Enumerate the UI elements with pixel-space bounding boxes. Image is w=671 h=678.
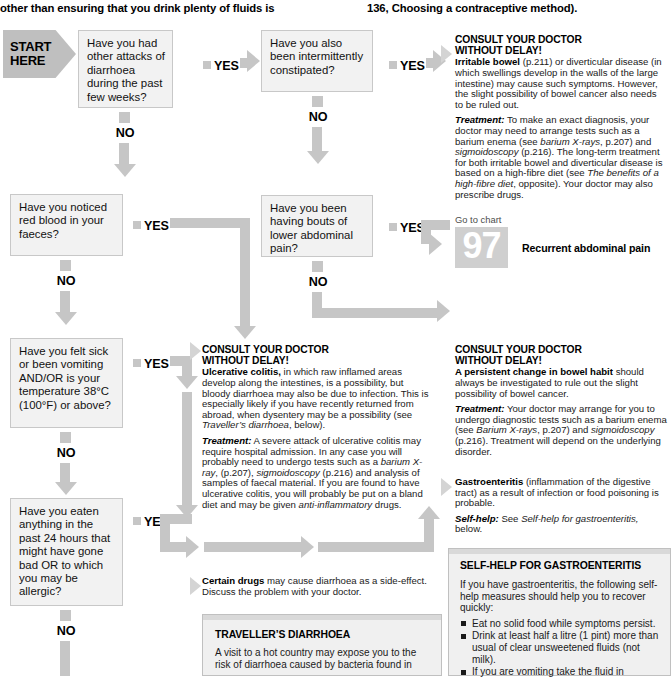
- advice-irritable-para-2: Treatment: To make an exact diagnosis, y…: [455, 115, 667, 200]
- flow-connector-q5-no-bar: [60, 463, 70, 483]
- flow-connector-q3-no-horiz: [312, 308, 440, 318]
- flow-arrow-q4-to-ulcerative: [234, 326, 256, 339]
- flow-arrow-q4-to-q5: [55, 312, 77, 325]
- feature-box-self-help-title: SELF-HELP FOR GASTROENTERITIS: [460, 560, 660, 572]
- question-box-5[interactable]: Have you felt sick or been vomiting AND/…: [10, 338, 123, 428]
- advice-bowel-para-2: Treatment: Your doctor may arrange for y…: [455, 404, 667, 457]
- self-help-bullet-item: Drink at least half a litre (1 pint) mor…: [460, 630, 660, 665]
- chart-number-97[interactable]: 97: [455, 227, 508, 268]
- advice-gastro-term: Gastroenteritis: [455, 476, 523, 487]
- flow-arrow-q1-no-head: [114, 164, 136, 177]
- question-box-1[interactable]: Have you had other attacks of diarrhoea …: [78, 30, 173, 108]
- self-help-bullet-list: Eat no solid food while symptoms persist…: [460, 618, 660, 678]
- flow-connector-q6-no-bar: [60, 641, 70, 676]
- flow-label-yes-q4: YES: [133, 220, 169, 233]
- feature-box-self-help-topbar: [449, 549, 670, 554]
- flow-label-no-q6: NO: [50, 624, 82, 638]
- flow-connector-q1-no-bar: [119, 143, 129, 165]
- yes-swatch-icon-2: [389, 61, 397, 69]
- self-help-bullet-item: Eat no solid food while symptoms persist…: [460, 618, 660, 630]
- advice-irritable-para-1: Irritable bowel (p.211) or diverticular …: [455, 57, 667, 110]
- advice-irritable-term: Irritable bowel: [455, 56, 520, 67]
- feature-box-travellers-diarrhoea: TRAVELLER’S DIARRHOEA A visit to a hot c…: [202, 614, 442, 676]
- advice-irritable-treatment-label: Treatment:: [455, 114, 504, 125]
- flow-arrow-q3-to-chart97: [429, 233, 442, 255]
- flow-connector-q6-yes-long2: [318, 542, 434, 552]
- advice-certain-drugs: Certain drugs may cause diarrhoea as a s…: [202, 576, 442, 597]
- flow-label-yes-q5: YES: [133, 358, 169, 371]
- yes-swatch-icon-6: [133, 517, 141, 525]
- yes-swatch-icon: [203, 61, 211, 69]
- advice-bowel-habit: CONSULT YOUR DOCTOR WITHOUT DELAY! A per…: [455, 344, 667, 457]
- flow-arrow-q2-to-q3: [307, 151, 329, 164]
- flow-label-no-q5: NO: [50, 446, 82, 460]
- flow-label-no-q3: NO: [302, 275, 334, 289]
- advice-ulcerative-colitis: CONSULT YOUR DOCTOR WITHOUT DELAY! Ulcer…: [202, 344, 434, 510]
- flow-arrow-q3-no-head: [437, 300, 450, 322]
- advice-ulcerative-heading-1: CONSULT YOUR DOCTOR: [202, 344, 434, 355]
- advice-ulcerative-para-2: Treatment: A severe attack of ulcerative…: [202, 436, 434, 510]
- question-box-3[interactable]: Have you been having bouts of lower abdo…: [261, 195, 373, 257]
- flow-connector-q5-yes-long: [182, 392, 192, 507]
- feature-box-self-help-intro: If you have gastroenteritis, the followi…: [460, 579, 660, 614]
- yes-swatch-icon-3: [389, 223, 397, 231]
- flow-stub-q4-no: [60, 260, 71, 271]
- start-here-marker: START HERE: [3, 30, 76, 78]
- flow-arrow-q6-yes-head: [186, 536, 199, 558]
- advice-gastroenteritis: Gastroenteritis (inflammation of the dig…: [455, 477, 667, 535]
- flow-label-yes-q1: YES: [203, 60, 239, 73]
- flow-arrow-certain-drugs: [190, 577, 201, 595]
- feature-box-self-help: SELF-HELP FOR GASTROENTERITIS If you hav…: [448, 548, 671, 676]
- flow-elbow-q6-yes-h: [170, 514, 192, 524]
- feature-box-travellers-title: TRAVELLER’S DIARRHOEA: [215, 629, 429, 641]
- header-right-text: 136, Choosing a contraceptive method).: [367, 2, 667, 15]
- question-box-4[interactable]: Have you noticed red blood in your faece…: [10, 194, 123, 256]
- advice-irritable-bowel: CONSULT YOUR DOCTOR WITHOUT DELAY! Irrit…: [455, 34, 667, 200]
- advice-bowel-para-1: A persistent change in bowel habit shoul…: [455, 367, 667, 399]
- flow-connector-riser-right: [424, 518, 434, 552]
- question-box-6[interactable]: Have you eaten anything in the past 24 h…: [10, 498, 123, 606]
- flow-label-no-q2: NO: [302, 110, 334, 124]
- flow-label-yes-q2: YES: [389, 60, 425, 73]
- start-label-line2: HERE: [10, 54, 51, 68]
- flow-arrow-q6-yes-head2: [301, 536, 314, 558]
- flow-arrow-marker-irritable: [441, 45, 452, 63]
- flow-connector-q2-no-bar: [312, 127, 322, 152]
- flow-stub-q5-no: [60, 432, 71, 443]
- flow-label-no-q1: NO: [109, 126, 141, 140]
- flow-label-no-q4: NO: [50, 274, 82, 288]
- flow-label-yes-q3: YES: [389, 222, 425, 235]
- advice-ulcerative-heading-2: WITHOUT DELAY!: [202, 355, 434, 366]
- advice-certain-drugs-term: Certain drugs: [202, 575, 264, 586]
- feature-box-travellers-topbar: [203, 615, 441, 620]
- question-box-2[interactable]: Have you also been intermittently consti…: [261, 30, 373, 92]
- flow-arrow-marker-ulcerative: [190, 342, 201, 360]
- advice-gastro-selfhelp-label: Self-help:: [455, 513, 499, 524]
- yes-swatch-icon-5: [133, 359, 141, 367]
- feature-box-travellers-body: A visit to a hot country may expose you …: [215, 647, 429, 670]
- go-to-chart-label: Go to chart: [455, 215, 667, 225]
- advice-ulcerative-treatment-label: Treatment:: [202, 435, 251, 446]
- advice-irritable-heading-1: CONSULT YOUR DOCTOR: [455, 34, 667, 45]
- advice-bowel-treatment-label: Treatment:: [455, 403, 504, 414]
- flow-connector-q6-yes-long: [204, 542, 304, 552]
- flow-stub-q1-no: [119, 112, 130, 123]
- start-label-line1: START: [10, 40, 51, 54]
- advice-bowel-term: A persistent change in bowel habit: [455, 366, 613, 377]
- flow-stub-q6-no: [60, 610, 71, 621]
- header-left-text: other than ensuring that you drink plent…: [0, 2, 340, 15]
- advice-bowel-heading-2: WITHOUT DELAY!: [455, 355, 667, 366]
- flow-arrow-q5-to-q6: [55, 482, 77, 495]
- go-to-chart-block[interactable]: Go to chart 97 Recurrent abdominal pain: [455, 215, 667, 268]
- flow-connector-q4-yes-vert: [240, 218, 250, 328]
- advice-bowel-heading-1: CONSULT YOUR DOCTOR: [455, 344, 667, 355]
- advice-irritable-heading-2: WITHOUT DELAY!: [455, 45, 667, 56]
- flow-stub-q2-no: [312, 96, 323, 107]
- flow-arrow-marker-gastro: [441, 478, 452, 496]
- chart-caption: Recurrent abdominal pain: [522, 242, 650, 254]
- flow-arrow-q1-to-q2: [247, 50, 260, 72]
- advice-ulcerative-term: Ulcerative colitis,: [202, 366, 281, 377]
- advice-certain-drugs-para: Certain drugs may cause diarrhoea as a s…: [202, 576, 442, 597]
- flow-arrow-q5-yes-head1: [176, 376, 198, 389]
- flow-connector-q4-no-bar: [60, 291, 70, 313]
